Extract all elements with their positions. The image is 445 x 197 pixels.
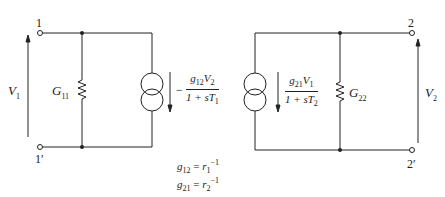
terminal-1prime-label: 1′ — [35, 153, 44, 165]
current-source-2-lower-ring — [244, 89, 266, 111]
source2-expression: g21V1 1 + sT2 — [285, 74, 318, 109]
source1-expression: g12V2 1 + sT1 — [186, 72, 219, 107]
v1-label: V1 — [8, 84, 20, 101]
terminal-2-icon — [410, 31, 415, 36]
v2-label: V2 — [425, 86, 437, 103]
equation-g21: g21 = r2−1 — [177, 176, 219, 193]
terminal-1-label: 1 — [36, 17, 42, 29]
junction-dot-icon — [338, 148, 342, 152]
junction-dot-icon — [80, 145, 84, 149]
g22-label: G22 — [349, 86, 366, 103]
equation-g12: g12 = r1−1 — [177, 158, 219, 175]
source2-arrow-icon — [276, 105, 280, 112]
current-source-1-lower-ring — [141, 89, 163, 111]
source1-arrow-icon — [168, 105, 172, 112]
terminal-1prime-icon — [38, 145, 43, 150]
terminal-2prime-icon — [410, 148, 415, 153]
junction-dot-icon — [80, 31, 84, 35]
resistor-g22-icon — [336, 82, 344, 101]
junction-dot-icon — [338, 31, 342, 35]
terminal-2prime-label: 2′ — [407, 158, 416, 170]
terminal-2-label: 2 — [408, 17, 414, 29]
v2-arrow-icon — [416, 39, 420, 46]
v1-arrow-icon — [26, 35, 30, 42]
terminal-1-icon — [38, 31, 43, 36]
source1-sign: − — [176, 84, 183, 96]
g11-label: G11 — [52, 84, 69, 101]
equivalent-circuit-diagram: 1 1′ V1 G11 − g12V2 1 + sT1 2 2′ V2 G22 … — [0, 0, 445, 197]
resistor-g11-icon — [78, 80, 86, 99]
